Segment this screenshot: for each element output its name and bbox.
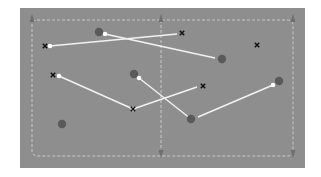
field [20, 8, 305, 168]
line-endpoint [48, 44, 53, 49]
line-endpoint [57, 74, 62, 79]
player-circle-icon [275, 77, 283, 85]
player-circle-icon [58, 120, 66, 128]
player-circle-icon [187, 115, 195, 123]
tactics-diagram [0, 0, 321, 177]
field-background [20, 8, 305, 168]
player-circle-icon [95, 28, 103, 36]
line-endpoint [271, 83, 276, 88]
player-circle-icon [130, 70, 138, 78]
player-circle-icon [218, 55, 226, 63]
line-endpoint [103, 32, 108, 37]
